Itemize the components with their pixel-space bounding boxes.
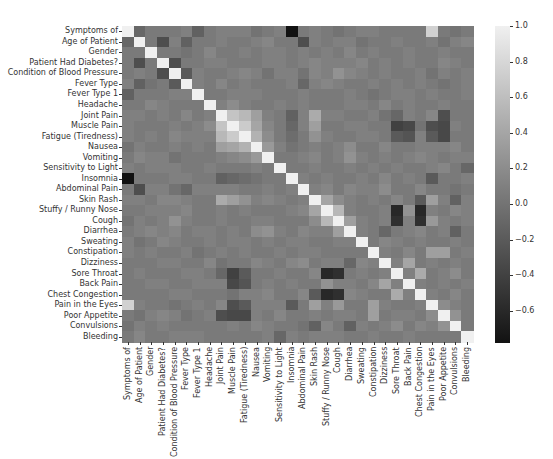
heatmap-cell: [274, 142, 286, 153]
heatmap-cell: [227, 131, 239, 142]
heatmap-cell: [192, 310, 204, 321]
heatmap-cell: [333, 47, 345, 58]
heatmap-cell: [262, 163, 274, 174]
heatmap-cell: [391, 110, 403, 121]
heatmap-cell: [356, 247, 368, 258]
heatmap-cell: [391, 279, 403, 290]
heatmap-cell: [333, 205, 345, 216]
y-tick: [119, 84, 122, 85]
heatmap-cell: [450, 184, 462, 195]
heatmap-cell: [415, 331, 427, 342]
heatmap-cell: [216, 47, 228, 58]
x-tick: [280, 342, 281, 345]
heatmap-cell: [391, 195, 403, 206]
heatmap-cell: [216, 237, 228, 248]
x-tick-label: Stuffy / Runny Nose: [322, 347, 332, 426]
y-tick: [119, 305, 122, 306]
heatmap-cell: [415, 131, 427, 142]
heatmap-cell: [344, 268, 356, 279]
heatmap-cell: [122, 237, 134, 248]
heatmap-cell: [169, 131, 181, 142]
heatmap-cell: [157, 331, 169, 342]
y-tick: [119, 73, 122, 74]
heatmap-cell: [262, 226, 274, 237]
y-tick-label: Diarrhea: [84, 226, 118, 236]
heatmap-cell: [192, 321, 204, 332]
heatmap-cell: [333, 216, 345, 227]
heatmap-cell: [403, 205, 415, 216]
heatmap-cell: [403, 289, 415, 300]
heatmap-cell: [181, 300, 193, 311]
x-tick: [420, 342, 421, 345]
heatmap-cell: [157, 258, 169, 269]
heatmap-cell: [438, 205, 450, 216]
heatmap-cell: [415, 300, 427, 311]
heatmap-cell: [309, 121, 321, 132]
x-tick: [467, 342, 468, 345]
heatmap-cell: [262, 195, 274, 206]
heatmap-cell: [181, 310, 193, 321]
heatmap-cell: [239, 268, 251, 279]
heatmap-cell: [298, 163, 310, 174]
heatmap-cell: [262, 321, 274, 332]
x-tick: [198, 342, 199, 345]
heatmap-cell: [403, 26, 415, 37]
heatmap-cell: [321, 310, 333, 321]
heatmap-cell: [379, 68, 391, 79]
heatmap-cell: [379, 289, 391, 300]
heatmap-cell: [239, 142, 251, 153]
heatmap-cell: [227, 173, 239, 184]
heatmap-cell: [391, 131, 403, 142]
heatmap-cell: [391, 79, 403, 90]
heatmap-cell: [321, 26, 333, 37]
heatmap-cell: [262, 184, 274, 195]
heatmap-cell: [368, 173, 380, 184]
y-tick-label: Sensitivity to Light: [43, 163, 118, 173]
heatmap-cell: [461, 26, 473, 37]
heatmap-cell: [309, 68, 321, 79]
heatmap-cell: [262, 47, 274, 58]
heatmap-cell: [227, 47, 239, 58]
y-tick: [119, 221, 122, 222]
heatmap-cell: [134, 279, 146, 290]
heatmap-cell: [204, 121, 216, 132]
heatmap-cell: [344, 321, 356, 332]
heatmap-cell: [286, 58, 298, 69]
heatmap-cell: [450, 100, 462, 111]
y-tick-label: Sweating: [81, 237, 118, 247]
heatmap-cell: [192, 237, 204, 248]
heatmap-cell: [415, 268, 427, 279]
heatmap-cell: [122, 163, 134, 174]
heatmap-cell: [286, 321, 298, 332]
heatmap-cell: [415, 152, 427, 163]
heatmap-cell: [450, 268, 462, 279]
heatmap-cell: [181, 195, 193, 206]
y-tick: [119, 63, 122, 64]
heatmap-cell: [368, 26, 380, 37]
heatmap-cell: [157, 47, 169, 58]
heatmap-cell: [379, 79, 391, 90]
heatmap-cell: [450, 152, 462, 163]
heatmap-cell: [216, 216, 228, 227]
heatmap-cell: [145, 279, 157, 290]
heatmap-cell: [122, 68, 134, 79]
heatmap-cell: [181, 58, 193, 69]
heatmap-cell: [134, 100, 146, 111]
heatmap-cell: [321, 226, 333, 237]
heatmap-cell: [192, 216, 204, 227]
heatmap-cell: [321, 331, 333, 342]
heatmap-cell: [438, 79, 450, 90]
heatmap-cell: [450, 258, 462, 269]
heatmap-cell: [356, 321, 368, 332]
heatmap-cell: [450, 37, 462, 48]
heatmap-cell: [122, 131, 134, 142]
x-tick-label: Vomiting: [263, 347, 273, 382]
heatmap-cell: [122, 121, 134, 132]
heatmap-cell: [181, 79, 193, 90]
heatmap-cell: [368, 247, 380, 258]
heatmap-cell: [286, 37, 298, 48]
heatmap-cell: [157, 110, 169, 121]
heatmap-cell: [426, 110, 438, 121]
heatmap-cell: [379, 173, 391, 184]
heatmap-cell: [216, 89, 228, 100]
